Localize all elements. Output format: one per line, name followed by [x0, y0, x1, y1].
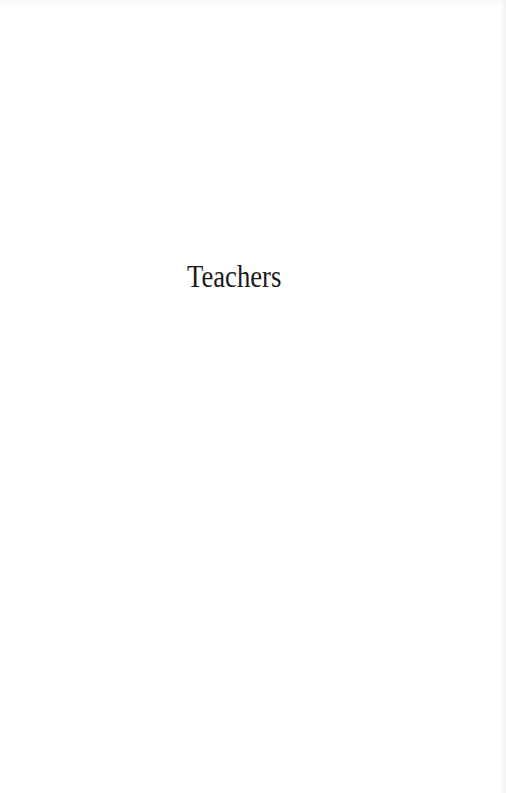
- section-title: Teachers: [187, 259, 281, 295]
- book-page: Teachers: [0, 0, 506, 793]
